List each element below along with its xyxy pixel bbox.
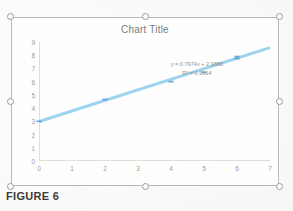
handle-top-left[interactable] (7, 13, 14, 20)
x-axis-tick-label: 4 (169, 165, 173, 172)
data-point-marker[interactable] (234, 58, 239, 60)
x-axis-tick-label: 0 (37, 165, 41, 172)
handle-bottom-left[interactable] (7, 183, 14, 190)
y-axis-tick-label: 0 (31, 158, 35, 165)
y-axis-tick-label: 6 (31, 78, 35, 85)
y-axis-tick-label: 2 (31, 131, 35, 138)
chart-object[interactable]: Chart Title 0123456789 01234567 y = 0.79… (11, 17, 279, 186)
y-axis-tick-label: 1 (31, 144, 35, 151)
plot-graphics (39, 42, 270, 161)
trendline-equation-text: y = 0.7974x + 2.9888 (171, 60, 224, 69)
plot-area[interactable]: 0123456789 01234567 y = 0.7974x + 2.9888… (39, 42, 270, 161)
chart-title[interactable]: Chart Title (12, 24, 278, 35)
x-axis-tick-label: 1 (70, 165, 74, 172)
x-axis-tick-label: 2 (103, 165, 107, 172)
x-axis-tick-label: 7 (268, 165, 272, 172)
handle-middle-right[interactable] (276, 98, 283, 105)
data-point-marker[interactable] (234, 56, 239, 58)
x-axis-tick-label: 3 (136, 165, 140, 172)
x-axis-tick-label: 5 (202, 165, 206, 172)
trendline-r2-text: R² = 0.9914 (171, 69, 224, 78)
x-axis-tick-label: 6 (235, 165, 239, 172)
handle-top-center[interactable] (142, 13, 149, 20)
figure-caption: FIGURE 6 (6, 190, 59, 202)
trendline-equation-label[interactable]: y = 0.7974x + 2.9888 R² = 0.9914 (171, 60, 224, 77)
y-axis-tick-label: 9 (31, 39, 35, 46)
y-axis-tick-label: 3 (31, 118, 35, 125)
data-point-marker[interactable] (36, 120, 41, 122)
handle-bottom-center[interactable] (142, 183, 149, 190)
chart-canvas[interactable]: Chart Title 0123456789 01234567 y = 0.79… (12, 18, 278, 185)
y-axis-tick-label: 4 (31, 105, 35, 112)
handle-top-right[interactable] (276, 13, 283, 20)
data-point-marker[interactable] (102, 99, 107, 101)
y-axis-tick-label: 8 (31, 52, 35, 59)
y-axis-tick-label: 7 (31, 65, 35, 72)
handle-bottom-right[interactable] (276, 183, 283, 190)
data-point-marker[interactable] (168, 81, 173, 83)
handle-middle-left[interactable] (7, 98, 14, 105)
y-axis-tick-label: 5 (31, 91, 35, 98)
